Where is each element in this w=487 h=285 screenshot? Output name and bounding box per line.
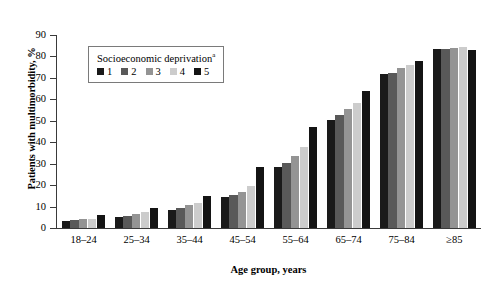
y-axis-tick-label: 60 [20, 94, 46, 104]
y-axis-tick [50, 185, 56, 186]
bar [433, 49, 441, 228]
legend-swatch-icon [97, 68, 104, 75]
bar [415, 61, 423, 228]
y-axis-tick-label: 50 [20, 116, 46, 126]
bar-group [274, 35, 318, 228]
y-axis-tick-label: 0 [20, 223, 46, 233]
legend-title: Socioeconomic deprivationa [97, 51, 215, 64]
y-axis-tick-label: 90 [20, 30, 46, 40]
bar [203, 196, 211, 228]
x-axis-tick-label: 55–64 [269, 234, 322, 245]
legend-swatch-icon [170, 68, 177, 75]
bar-group [380, 35, 424, 228]
bar [176, 208, 184, 228]
legend-item-label: 3 [156, 67, 161, 77]
legend-swatch-icon [146, 68, 153, 75]
bar [194, 203, 202, 228]
legend-item-label: 5 [204, 67, 209, 77]
bar [344, 109, 352, 228]
x-axis-tick-label: 35–44 [163, 234, 216, 245]
legend-item-label: 2 [131, 67, 136, 77]
bar [291, 156, 299, 228]
legend-items: 12345 [97, 67, 215, 77]
y-axis-tick-label: 20 [20, 180, 46, 190]
bar-group [433, 35, 477, 228]
bar [238, 192, 246, 228]
x-axis-tick-label: 25–34 [110, 234, 163, 245]
legend-item-label: 4 [180, 67, 185, 77]
bar [247, 186, 255, 228]
bar [388, 73, 396, 228]
y-axis-tick-label: 10 [20, 202, 46, 212]
bar [123, 216, 131, 228]
legend-item: 3 [146, 67, 161, 77]
legend-swatch-icon [194, 68, 201, 75]
y-axis-tick [50, 99, 56, 100]
legend-item: 1 [97, 67, 112, 77]
x-axis-tick-label: 45–54 [216, 234, 269, 245]
bar [459, 47, 467, 228]
bar [62, 221, 70, 229]
bar [362, 91, 370, 228]
bar [406, 65, 414, 228]
bar [274, 167, 282, 228]
y-axis-tick [50, 35, 56, 36]
bar [141, 212, 149, 228]
legend-title-text: Socioeconomic deprivation [97, 53, 212, 64]
x-axis-title: Age group, years [56, 264, 481, 275]
x-axis-line [56, 228, 481, 229]
legend-swatch-icon [121, 68, 128, 75]
x-axis-tick-label: 75–84 [375, 234, 428, 245]
bar [441, 49, 449, 228]
y-axis-tick [50, 164, 56, 165]
bar [79, 219, 87, 228]
legend: Socioeconomic deprivationa 12345 [88, 46, 224, 83]
legend-item: 2 [121, 67, 136, 77]
y-axis-tick [50, 56, 56, 57]
bar [300, 147, 308, 228]
legend-item-label: 1 [107, 67, 112, 77]
bar [282, 163, 290, 228]
bar [70, 220, 78, 228]
bar [221, 197, 229, 228]
bar [132, 214, 140, 228]
chart-figure: Patients with multimorbidity, % 01020304… [0, 0, 487, 285]
bar [353, 103, 361, 228]
bar-group [327, 35, 371, 228]
y-axis-tick [50, 207, 56, 208]
bar [168, 210, 176, 228]
x-axis-tick-label: 18–24 [57, 234, 110, 245]
y-axis-tick [50, 78, 56, 79]
bar [185, 205, 193, 228]
legend-item: 4 [170, 67, 185, 77]
y-axis-tick [50, 121, 56, 122]
bar [256, 167, 264, 228]
bar [335, 115, 343, 228]
y-axis-tick [50, 142, 56, 143]
x-axis-tick-label: ≥85 [428, 234, 481, 245]
bar [115, 217, 123, 228]
bar [150, 208, 158, 228]
bar [88, 219, 96, 228]
bar [468, 50, 476, 228]
legend-item: 5 [194, 67, 209, 77]
y-axis-tick-label: 30 [20, 159, 46, 169]
bar [327, 120, 335, 228]
y-axis-tick-label: 70 [20, 73, 46, 83]
bar [229, 195, 237, 228]
y-axis-tick-label: 40 [20, 137, 46, 147]
bar-group [221, 35, 265, 228]
x-axis-tick-label: 65–74 [322, 234, 375, 245]
y-axis-tick-label: 80 [20, 51, 46, 61]
bar [450, 48, 458, 228]
bar [97, 215, 105, 228]
bar [397, 68, 405, 228]
bar [309, 127, 317, 228]
legend-title-superscript: a [212, 51, 215, 59]
bar [380, 74, 388, 228]
